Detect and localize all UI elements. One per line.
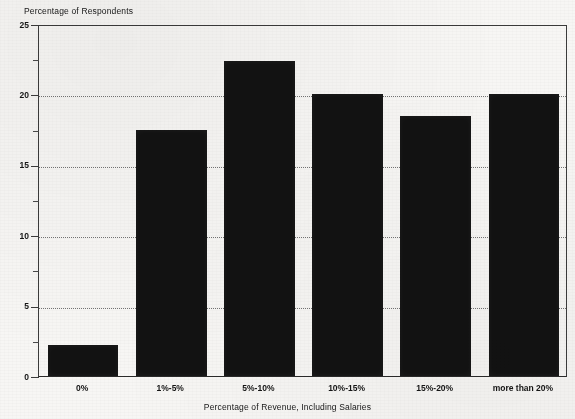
y-tick-minor [33, 342, 39, 343]
y-tick-major [31, 25, 39, 26]
y-tick-major [31, 95, 39, 96]
y-tick-label: 10 [0, 232, 29, 241]
y-tick-major [31, 307, 39, 308]
y-tick-label: 0 [0, 373, 29, 382]
gridline [39, 237, 566, 238]
y-tick-minor [33, 60, 39, 61]
y-tick-minor [33, 271, 39, 272]
bar [489, 94, 560, 376]
bar [136, 130, 207, 376]
x-tick-label: 0% [38, 383, 126, 393]
bar [48, 345, 119, 376]
x-axis-title: Percentage of Revenue, Including Salarie… [0, 402, 575, 412]
x-tick-label: more than 20% [479, 383, 567, 393]
x-tick-label: 5%-10% [214, 383, 302, 393]
y-tick-label: 25 [0, 21, 29, 30]
x-tick-label: 1%-5% [126, 383, 214, 393]
bar [400, 116, 471, 376]
y-tick-label: 5 [0, 302, 29, 311]
gridline [39, 96, 566, 97]
y-tick-major [31, 377, 39, 378]
gridline [39, 167, 566, 168]
y-tick-minor [33, 131, 39, 132]
bar [312, 94, 383, 376]
y-tick-minor [33, 201, 39, 202]
y-tick-label: 20 [0, 91, 29, 100]
gridline [39, 308, 566, 309]
cropped-title-sliver [150, 0, 450, 5]
y-axis-title: Percentage of Respondents [24, 6, 133, 16]
y-tick-major [31, 166, 39, 167]
bar [224, 61, 295, 376]
y-tick-major [31, 236, 39, 237]
x-tick-label: 15%-20% [391, 383, 479, 393]
plot-area [38, 25, 567, 377]
x-tick-label: 10%-15% [303, 383, 391, 393]
chart-page: Percentage of Respondents 0510152025 0%1… [0, 0, 575, 419]
y-tick-label: 15 [0, 161, 29, 170]
